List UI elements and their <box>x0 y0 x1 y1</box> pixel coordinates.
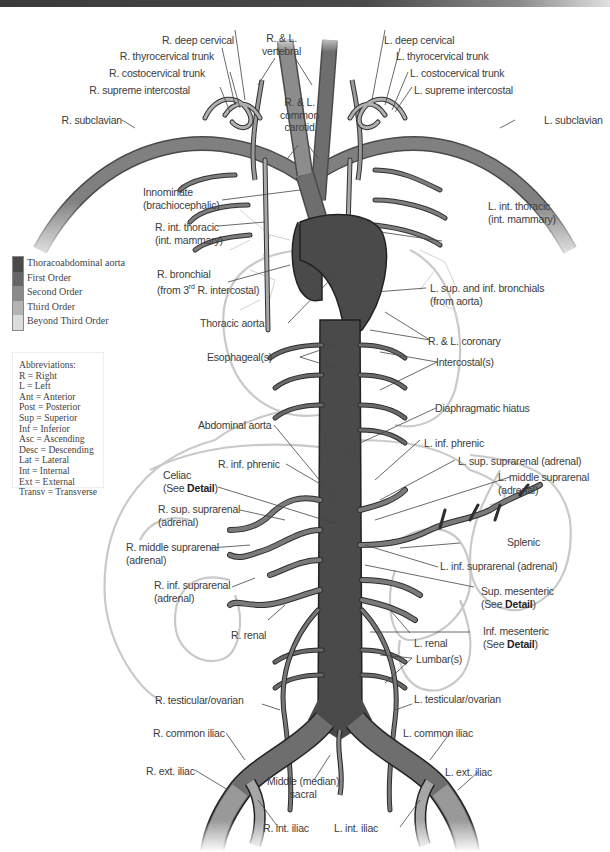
legend-item: Thoracoabdominal aorta <box>27 256 125 271</box>
label-r-int-iliac: R. int. iliac <box>263 822 309 835</box>
label-line: (int. mammary) <box>488 213 556 226</box>
label-l-middle-suprarenal: L. middle suprarenal (adrenal) <box>498 471 589 496</box>
label-line: (from aorta) <box>430 295 544 308</box>
label-line: Celiac <box>163 469 218 482</box>
label-text: (See <box>163 482 187 494</box>
label-line: (from 3rd R. intercostal) <box>157 281 259 296</box>
label-r-int-thoracic: R. int. thoracic (int. mammary) <box>155 221 223 246</box>
label-text: (See <box>481 598 505 610</box>
label-l-renal: L. renal <box>414 637 447 650</box>
label-r-renal: R. renal <box>231 629 266 642</box>
label-text: (from 3 <box>157 283 189 295</box>
label-l-common-iliac: L. common iliac <box>403 727 473 740</box>
label-r-middle-suprarenal: R. middle suprarenal (adrenal) <box>126 541 219 566</box>
label-line: (See Detail) <box>481 598 554 611</box>
label-line: sacral <box>267 788 339 801</box>
label-thoracic-aorta: Thoracic aorta <box>200 317 264 330</box>
label-detail-ref: Detail <box>187 482 214 494</box>
label-l-inf-suprarenal: L. inf. suprarenal (adrenal) <box>440 560 558 573</box>
label-esophageal: Esophageal(s) <box>207 351 272 364</box>
label-detail-ref: Detail <box>505 598 532 610</box>
label-line: L. int. thoracic <box>488 200 556 213</box>
label-splenic: Splenic <box>507 536 540 549</box>
legend-swatch-beyond-third <box>13 315 23 330</box>
label-line: R. inf. suprarenal <box>154 579 230 592</box>
label-l-sup-suprarenal: L. sup. suprarenal (adrenal) <box>458 455 581 468</box>
label-lumbar: Lumbar(s) <box>416 653 462 666</box>
label-l-costocervical-trunk: L. costocervical trunk <box>410 67 504 80</box>
label-r-costocervical-trunk: R. costocervical trunk <box>109 67 205 80</box>
label-r-supreme-intercostal: R. supreme intercostal <box>89 84 190 97</box>
label-l-subclavian: L. subclavian <box>544 114 603 127</box>
label-innominate: Innominate (brachiocephalic) <box>143 186 220 211</box>
label-diaphragmatic-hiatus: Diaphragmatic hiatus <box>435 402 530 415</box>
label-text: ) <box>215 482 218 494</box>
aorta <box>292 215 386 740</box>
label-text: ) <box>533 598 536 610</box>
label-l-int-iliac: L. int. iliac <box>334 822 378 835</box>
label-l-deep-cervical: L. deep cervical <box>384 34 454 47</box>
label-line: carotid <box>280 121 319 134</box>
label-line: L. middle suprarenal <box>498 471 589 484</box>
label-line: Inf. mesenteric <box>483 625 549 638</box>
label-line: Middle (median) <box>267 775 339 788</box>
label-line: vertebral <box>262 45 301 58</box>
abbreviations-box: Abbreviations: R = Right L = Left Ant = … <box>12 352 104 488</box>
label-l-ext-iliac: L. ext. iliac <box>445 766 492 779</box>
label-sup-mesenteric: Sup. mesenteric (See Detail) <box>481 585 554 610</box>
label-line: (adrenal) <box>126 554 219 567</box>
label-line: R. middle suprarenal <box>126 541 219 554</box>
legend-item: Second Order <box>27 285 125 300</box>
label-l-inf-phrenic: L. inf. phrenic <box>424 437 484 450</box>
label-line: R. & L. <box>280 96 319 109</box>
label-line: Sup. mesenteric <box>481 585 554 598</box>
legend-swatch-second-order <box>13 286 23 301</box>
legend-item: Third Order <box>27 300 125 315</box>
label-r-testicular-ovarian: R. testicular/ovarian <box>155 694 244 707</box>
label-middle-sacral: Middle (median) sacral <box>267 775 339 800</box>
label-line: (brachiocephalic) <box>143 199 220 212</box>
label-r-inf-phrenic: R. inf. phrenic <box>218 458 280 471</box>
label-line: R. int. thoracic <box>155 221 223 234</box>
label-rl-vertebral: R. & L. vertebral <box>262 32 301 57</box>
label-line: common <box>280 109 319 122</box>
label-l-supreme-intercostal: L. supreme intercostal <box>414 84 513 97</box>
label-line: L. sup. and inf. bronchials <box>430 282 544 295</box>
label-celiac: Celiac (See Detail) <box>163 469 218 494</box>
abbreviation-row: Int = Internal <box>19 466 103 477</box>
label-l-thyrocervical-trunk: L. thyrocervical trunk <box>396 50 488 63</box>
label-r-bronchial: R. bronchial (from 3rd R. intercostal) <box>157 268 259 296</box>
legend-swatch-aorta <box>13 257 23 272</box>
label-text: ) <box>535 638 538 650</box>
abbreviation-row: Sup = Superior <box>19 413 103 424</box>
abbreviations-title: Abbreviations: <box>19 360 103 371</box>
label-line: (int. mammary) <box>155 234 223 247</box>
legend-item: Beyond Third Order <box>27 314 125 329</box>
label-r-common-iliac: R. common iliac <box>153 727 225 740</box>
label-rl-coronary: R. & L. coronary <box>428 335 501 348</box>
label-r-ext-iliac: R. ext. iliac <box>146 765 195 778</box>
label-r-inf-suprarenal: R. inf. suprarenal (adrenal) <box>154 579 230 604</box>
label-text: R. intercostal) <box>195 283 260 295</box>
legend-item: First Order <box>27 271 125 286</box>
label-rl-common-carotid: R. & L. common carotid <box>280 96 319 134</box>
abbreviation-row: Transv = Transverse <box>19 487 103 498</box>
label-abdominal-aorta: Abdominal aorta <box>198 419 271 432</box>
label-r-deep-cervical: R. deep cervical <box>162 34 234 47</box>
label-inf-mesenteric: Inf. mesenteric (See Detail) <box>483 625 549 650</box>
label-line: R. sup. suprarenal <box>158 503 240 516</box>
label-line: (See Detail) <box>483 638 549 651</box>
label-text: (See <box>483 638 507 650</box>
legend-swatch-first-order <box>13 272 23 287</box>
label-l-testicular-ovarian: L. testicular/ovarian <box>414 693 501 706</box>
label-line: (adrenal) <box>498 484 589 497</box>
label-l-bronchials: L. sup. and inf. bronchials (from aorta) <box>430 282 544 307</box>
label-line: Innominate <box>143 186 220 199</box>
label-detail-ref: Detail <box>507 638 534 650</box>
label-r-thyrocervical-trunk: R. thyrocervical trunk <box>120 50 214 63</box>
legend-swatches <box>12 256 24 331</box>
label-line: R. & L. <box>262 32 301 45</box>
label-line: (adrenal) <box>154 592 230 605</box>
label-l-int-thoracic: L. int. thoracic (int. mammary) <box>488 200 556 225</box>
label-line: (adrenal) <box>158 516 240 529</box>
